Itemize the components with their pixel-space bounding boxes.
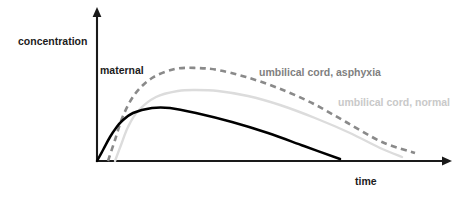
curve-umbilical-cord-asphyxia [108, 68, 415, 161]
curve-label-umbilical-cord-normal: umbilical cord, normal [338, 97, 450, 108]
x-axis-label: time [355, 176, 377, 187]
time-axis [96, 157, 452, 166]
curve-label-umbilical-cord-asphyxia: umbilical cord, asphyxia [259, 67, 381, 78]
chart-figure: concentration maternal umbilical cord, a… [0, 0, 469, 198]
concentration-axis [93, 7, 102, 161]
curve-label-maternal: maternal [100, 65, 144, 76]
x-axis-arrowhead-icon [442, 157, 452, 166]
y-axis-arrowhead-icon [93, 7, 102, 17]
y-axis-label: concentration [18, 36, 87, 47]
